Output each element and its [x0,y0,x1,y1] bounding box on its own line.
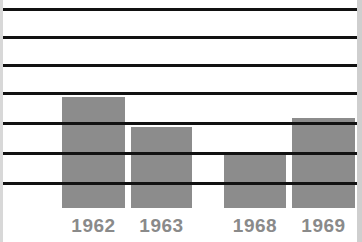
gridline [0,8,362,11]
gridline [0,64,362,67]
x-axis-label: 1963 [131,215,192,237]
gridline [0,92,362,95]
right-edge-strip [357,0,362,242]
plot-area [0,0,362,210]
x-axis-label: 1962 [62,215,125,237]
bar-chart: 1962196319681969 [0,0,362,242]
x-axis-label: 1969 [292,215,355,237]
gridline [0,182,362,185]
bars-layer [0,0,362,210]
gridline [0,36,362,39]
gridline [0,122,362,125]
bar [131,127,192,208]
left-edge-strip [0,0,3,242]
gridline [0,152,362,155]
x-axis-label: 1968 [224,215,286,237]
x-axis-labels: 1962196319681969 [0,210,362,242]
bar [292,118,355,208]
bar [224,154,286,208]
